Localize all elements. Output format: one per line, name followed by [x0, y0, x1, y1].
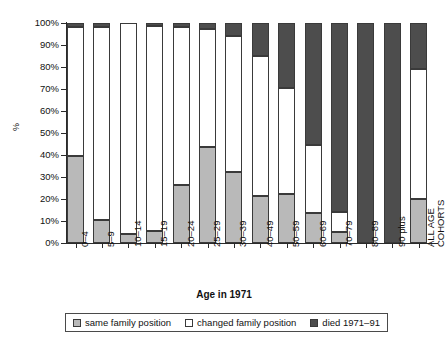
x-tick-mark	[313, 244, 314, 248]
bar-stack[interactable]	[384, 23, 401, 243]
bar-segment-died[interactable]	[67, 23, 84, 27]
bar-segment-died[interactable]	[173, 23, 190, 27]
y-tick-mark	[61, 133, 66, 134]
y-tick-label: 80%	[1, 62, 59, 72]
bar-segment-died[interactable]	[146, 23, 163, 26]
bar-segment-died[interactable]	[305, 23, 322, 145]
x-axis-line	[66, 243, 438, 244]
legend-item[interactable]: same family position	[73, 318, 171, 328]
x-tick-mark	[128, 244, 129, 248]
x-tick-mark	[155, 244, 156, 248]
bar-segment-changed[interactable]	[146, 26, 163, 231]
bar-segment-changed[interactable]	[252, 56, 269, 196]
x-tick-mark	[392, 244, 393, 248]
y-tick-mark	[61, 177, 66, 178]
y-tick-mark	[61, 199, 66, 200]
bar-segment-died[interactable]	[252, 23, 269, 56]
y-tick-label: 70%	[1, 84, 59, 94]
chart-figure: % 0%10%20%30%40%50%60%70%80%90%100% 0–45…	[0, 0, 448, 345]
y-tick-label-wrap: 30%	[0, 172, 59, 182]
bar-segment-changed[interactable]	[93, 27, 110, 220]
bar-segment-changed[interactable]	[278, 88, 295, 194]
y-tick-mark	[61, 89, 66, 90]
bar-stack[interactable]	[173, 23, 190, 243]
y-tick-label: 40%	[1, 150, 59, 160]
bar-segment-changed[interactable]	[199, 29, 216, 148]
bar-stack[interactable]	[146, 23, 163, 243]
y-tick-label: 50%	[1, 128, 59, 138]
bar-segment-died[interactable]	[93, 23, 110, 27]
y-tick-mark	[61, 67, 66, 68]
bar-segment-died[interactable]	[357, 23, 374, 243]
y-tick-label-wrap: 20%	[0, 194, 59, 204]
y-tick-label: 0%	[1, 238, 59, 248]
y-tick-mark	[61, 45, 66, 46]
plot-area	[67, 23, 437, 243]
y-tick-label-wrap: 50%	[0, 128, 59, 138]
bar-segment-changed[interactable]	[173, 27, 190, 184]
bar-stack[interactable]	[225, 23, 242, 243]
legend-label: changed family position	[197, 318, 296, 328]
legend-swatch-icon	[185, 319, 193, 327]
y-tick-mark	[61, 23, 66, 24]
x-tick-mark	[287, 244, 288, 248]
bar-stack[interactable]	[278, 23, 295, 243]
y-tick-mark	[61, 221, 66, 222]
bar-stack[interactable]	[305, 23, 322, 243]
x-tick-mark	[181, 244, 182, 248]
y-tick-label: 60%	[1, 106, 59, 116]
y-tick-label-wrap: 100%	[0, 18, 59, 28]
y-tick-mark	[61, 111, 66, 112]
bar-stack[interactable]	[120, 23, 137, 243]
legend-swatch-icon	[310, 319, 318, 327]
bar-segment-died[interactable]	[225, 23, 242, 36]
x-tick-mark	[419, 244, 420, 248]
chart-legend: same family positionchanged family posit…	[65, 313, 388, 332]
bar-stack[interactable]	[93, 23, 110, 243]
x-tick-mark	[260, 244, 261, 248]
bar-segment-died[interactable]	[199, 23, 216, 29]
bar-segment-died[interactable]	[331, 23, 348, 212]
x-tick-mark	[76, 244, 77, 248]
y-tick-mark	[61, 243, 66, 244]
y-tick-label-wrap: 80%	[0, 62, 59, 72]
legend-swatch-icon	[73, 319, 81, 327]
y-tick-label-wrap: 90%	[0, 40, 59, 50]
legend-label: died 1971–91	[322, 318, 380, 328]
legend-item[interactable]: died 1971–91	[310, 318, 380, 328]
x-tick-mark	[234, 244, 235, 248]
x-tick-mark	[208, 244, 209, 248]
bar-stack[interactable]	[67, 23, 84, 243]
bar-stack[interactable]	[331, 23, 348, 243]
x-tick-mark	[366, 244, 367, 248]
y-tick-label: 100%	[1, 18, 59, 28]
y-tick-label: 90%	[1, 40, 59, 50]
x-axis-title: Age in 1971	[0, 289, 448, 300]
y-tick-label-wrap: 70%	[0, 84, 59, 94]
bar-segment-changed[interactable]	[225, 36, 242, 171]
bar-segment-died[interactable]	[278, 23, 295, 88]
legend-item[interactable]: changed family position	[185, 318, 296, 328]
x-tick-mark	[102, 244, 103, 248]
y-tick-mark	[61, 155, 66, 156]
y-tick-label: 20%	[1, 194, 59, 204]
bar-segment-died[interactable]	[384, 23, 401, 243]
bar-segment-changed[interactable]	[305, 145, 322, 213]
y-tick-label-wrap: 40%	[0, 150, 59, 160]
bar-segment-changed[interactable]	[410, 69, 427, 199]
bar-segment-same[interactable]	[67, 156, 84, 243]
bar-stack[interactable]	[199, 23, 216, 243]
bar-segment-changed[interactable]	[120, 23, 137, 234]
bar-segment-changed[interactable]	[67, 27, 84, 156]
y-tick-label: 10%	[1, 216, 59, 226]
y-tick-label-wrap: 60%	[0, 106, 59, 116]
legend-label: same family position	[85, 318, 171, 328]
bar-stack[interactable]	[357, 23, 374, 243]
y-tick-label: 30%	[1, 172, 59, 182]
y-tick-label-wrap: 0%	[0, 238, 59, 248]
bar-stack[interactable]	[252, 23, 269, 243]
x-tick-mark	[340, 244, 341, 248]
y-tick-label-wrap: 10%	[0, 216, 59, 226]
bar-segment-died[interactable]	[410, 23, 427, 69]
